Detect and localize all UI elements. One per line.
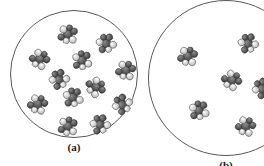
molecule-model xyxy=(70,49,95,72)
molecule-model xyxy=(55,22,81,46)
molecule-model xyxy=(56,115,81,138)
panel-b-label: (b) xyxy=(196,159,256,166)
molecular-concentration-figure: (a) (b) xyxy=(0,0,264,166)
panel-a-label: (a) xyxy=(44,141,104,153)
